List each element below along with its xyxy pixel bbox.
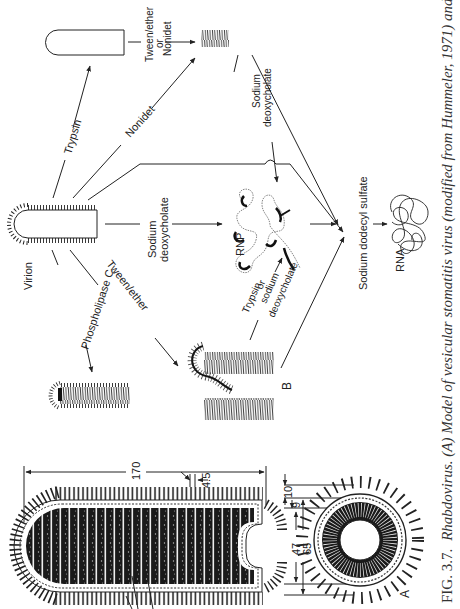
caption-text: FIG. 3.7. Rhabdovirus. (A) Model of vesi… <box>438 0 456 603</box>
figure-caption: FIG. 3.7. Rhabdovirus. (A) Model of vesi… <box>438 0 456 603</box>
svg-text:4.5: 4.5 <box>200 473 212 488</box>
svg-text:Sodium: Sodium <box>146 221 158 258</box>
panel-a-label: A <box>398 590 412 598</box>
trypsin-or-sodium-deoxycholate-arrow: Trypsin or sodium deoxycholate <box>240 258 300 340</box>
rna-structure: RNA <box>391 195 429 272</box>
svg-text:170: 170 <box>130 462 142 480</box>
panel-b-label: B <box>280 382 294 390</box>
phospholipase-c-product <box>51 383 130 408</box>
virion-cross-section <box>302 482 418 598</box>
sodium-deoxycholate-coil-to-rnp: Sodium deoxycholate <box>234 55 277 182</box>
svg-text:Sodium dodecyl sulfate: Sodium dodecyl sulfate <box>357 176 369 290</box>
tween-ether-product <box>192 346 274 420</box>
svg-text:9: 9 <box>290 502 302 508</box>
svg-text:Trypsin: Trypsin <box>61 118 83 156</box>
dimension-4-5: 4.5 <box>181 472 212 488</box>
panel-a: 170 4.5 <box>14 462 418 609</box>
figure-page: Tween/ether or Nonidet Trypsin Nonidet S… <box>0 0 460 609</box>
svg-text:RNA: RNA <box>394 248 406 272</box>
figure-canvas: Tween/ether or Nonidet Trypsin Nonidet S… <box>0 0 460 609</box>
svg-text:Nonidet: Nonidet <box>123 103 157 139</box>
svg-text:deoxycholate: deoxycholate <box>158 197 170 262</box>
caption-body: Rhabdovirus. (A) Model of vesicular stom… <box>439 0 456 542</box>
panel-b: Tween/ether or Nonidet Trypsin Nonidet S… <box>9 6 428 420</box>
tween-coil-to-sds-arrow <box>281 237 344 368</box>
nucleocapsid-coil-top <box>201 30 229 47</box>
virion: Virion <box>9 205 97 290</box>
sodium-deoxycholate-virion-to-rnp: Sodium deoxycholate <box>105 197 222 262</box>
svg-text:deoxycholate: deoxycholate <box>262 68 273 127</box>
svg-text:Sodium: Sodium <box>251 74 262 108</box>
svg-text:RNP: RNP <box>234 233 246 256</box>
virion-longitudinal-model <box>14 487 282 609</box>
svg-text:Nonidet: Nonidet <box>162 21 173 56</box>
direct-sds-path <box>88 160 343 232</box>
caption-fig-label: FIG. 3.7. <box>439 549 455 603</box>
svg-text:10: 10 <box>282 486 294 498</box>
phospholipase-c-arrow: Phospholipase C <box>52 250 116 372</box>
svg-text:Virion: Virion <box>22 262 34 290</box>
trypsin-arrow: Trypsin <box>53 66 90 198</box>
tween-ether-or-nonidet-label: Tween/ether or Nonidet <box>128 6 195 62</box>
svg-text:Phospholipase C: Phospholipase C <box>78 268 115 351</box>
trypsin-product-capsule <box>46 30 125 55</box>
svg-text:Tween/ether: Tween/ether <box>104 258 151 313</box>
coil-to-sds-arrow <box>252 55 338 225</box>
rnp-structure: RNP <box>234 189 300 273</box>
svg-text:Tween/ether: Tween/ether <box>144 6 155 62</box>
nonidet-arrow: Nonidet <box>73 58 195 198</box>
sodium-dodecyl-sulfate-node: Sodium dodecyl sulfate <box>357 176 387 290</box>
